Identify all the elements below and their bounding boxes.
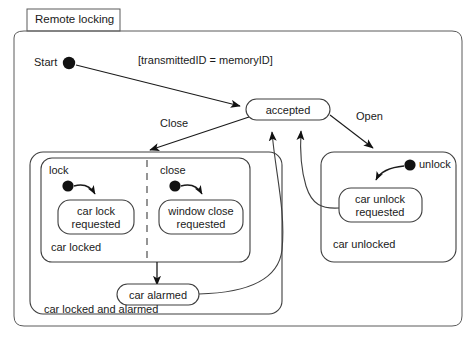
transition-label-close: Close: [160, 117, 188, 129]
state-label-window-close-requested-line2: requested: [177, 218, 226, 230]
diagram-title: Remote locking: [35, 13, 114, 26]
transition-car-unlock-to-accepted: [301, 131, 339, 208]
start-label: Start: [34, 56, 57, 68]
region-label-car-unlocked: car unlocked: [333, 238, 395, 250]
diagram-canvas: Remote locking Start [transmittedID = me…: [0, 0, 475, 343]
trigger-label-lock: lock: [49, 164, 69, 176]
state-label-car-lock-requested-line2: requested: [72, 218, 121, 230]
outer-frame: [14, 31, 462, 326]
transition-start-to-accepted: [76, 65, 240, 106]
state-label-accepted: accepted: [266, 104, 311, 116]
state-label-car-unlock-requested-line1: car unlock: [355, 193, 405, 205]
region-label-car-locked-and-alarmed: car locked and alarmed: [44, 303, 158, 315]
guard-condition-label: [transmittedID = memoryID]: [138, 54, 273, 66]
state-label-car-alarmed: car alarmed: [129, 289, 187, 301]
state-label-car-lock-requested-line1: car lock: [77, 205, 115, 217]
transition-label-open: Open: [356, 110, 383, 122]
start-pseudostate: [63, 57, 75, 69]
initial-node-unlock: [376, 159, 416, 180]
region-label-car-locked: car locked: [51, 241, 101, 253]
trigger-label-close: close: [160, 164, 186, 176]
state-label-window-close-requested-line1: window close: [168, 205, 233, 217]
state-label-car-unlock-requested-line2: requested: [356, 206, 405, 218]
initial-node-close: [169, 180, 202, 194]
initial-node-lock: [62, 180, 95, 194]
trigger-label-unlock: unlock: [419, 158, 451, 170]
state-machine-graphics: [0, 0, 475, 343]
